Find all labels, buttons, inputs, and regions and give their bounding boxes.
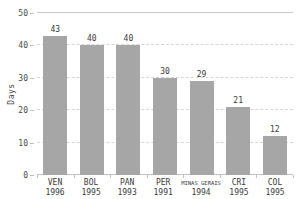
y-tick-mark xyxy=(30,13,34,14)
x-label-code: COL xyxy=(257,178,293,188)
x-category-label: PAN1993 xyxy=(109,178,145,198)
bar-slot: 30 xyxy=(147,13,184,175)
x-label-year: 1996 xyxy=(37,188,73,198)
y-tick-mark xyxy=(30,175,34,176)
x-label-code: PER xyxy=(145,178,181,188)
x-axis-labels: VEN1996BOL1995PAN1993PER1991MINAS GERAIS… xyxy=(37,178,293,198)
y-tick-mark xyxy=(30,110,34,111)
y-axis: 01020304050 xyxy=(0,13,37,175)
bar-pan xyxy=(116,45,140,175)
bar-slot: 43 xyxy=(37,13,74,175)
bar-cri xyxy=(226,107,250,175)
y-tick-label-30: 30 xyxy=(18,73,28,82)
bar-ven xyxy=(43,36,67,175)
y-tick-label-20: 20 xyxy=(18,106,28,115)
bar-slot: 29 xyxy=(183,13,220,175)
x-tick-mark xyxy=(293,175,294,178)
y-tick-label-10: 10 xyxy=(18,138,28,147)
bar-value-label: 30 xyxy=(160,67,170,76)
bars-container: 43404030292112 xyxy=(37,13,293,175)
bar-value-label: 29 xyxy=(197,70,207,79)
bar-slot: 21 xyxy=(220,13,257,175)
y-tick-mark xyxy=(30,45,34,46)
bar-value-label: 12 xyxy=(270,125,280,134)
bar-per xyxy=(153,78,177,175)
x-category-label: VEN1996 xyxy=(37,178,73,198)
x-label-year: 1995 xyxy=(73,188,109,198)
y-tick-mark xyxy=(30,143,34,144)
x-category-label: CRI1995 xyxy=(221,178,257,198)
bar-value-label: 43 xyxy=(50,25,60,34)
x-label-year: 1993 xyxy=(109,188,145,198)
bar-slot: 40 xyxy=(110,13,147,175)
bar-minas-gerais xyxy=(190,81,214,175)
bar-value-label: 40 xyxy=(87,34,97,43)
y-tick-label-0: 0 xyxy=(23,171,28,180)
bar-chart: Days 01020304050 43404030292112 VEN1996B… xyxy=(0,0,296,199)
bar-value-label: 21 xyxy=(233,96,243,105)
x-category-label: PER1991 xyxy=(145,178,181,198)
y-tick-label-40: 40 xyxy=(18,41,28,50)
x-category-label: COL1995 xyxy=(257,178,293,198)
x-category-label: MINAS GERAIS1994 xyxy=(181,178,221,198)
bar-slot: 12 xyxy=(256,13,293,175)
y-tick-mark xyxy=(30,78,34,79)
bar-col xyxy=(263,136,287,175)
x-label-year: 1995 xyxy=(257,188,293,198)
x-label-code: MINAS GERAIS xyxy=(181,178,221,188)
x-label-code: BOL xyxy=(73,178,109,188)
bar-value-label: 40 xyxy=(124,34,134,43)
bar-slot: 40 xyxy=(74,13,111,175)
x-label-year: 1991 xyxy=(145,188,181,198)
x-label-code: VEN xyxy=(37,178,73,188)
x-label-year: 1995 xyxy=(221,188,257,198)
y-tick-label-50: 50 xyxy=(18,9,28,18)
bar-bol xyxy=(80,45,104,175)
x-label-code: PAN xyxy=(109,178,145,188)
plot-area: 43404030292112 xyxy=(37,13,293,175)
x-label-year: 1994 xyxy=(181,188,221,198)
x-category-label: BOL1995 xyxy=(73,178,109,198)
x-label-code: CRI xyxy=(221,178,257,188)
